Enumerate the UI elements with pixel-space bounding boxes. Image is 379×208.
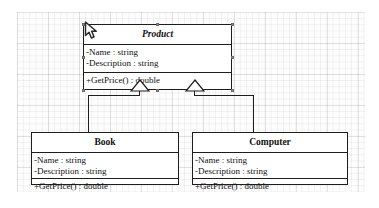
- operations-compartment-product: +GetPrice() : double: [84, 73, 231, 89]
- selection-handle[interactable]: [156, 89, 159, 92]
- class-name-computer: Computer: [193, 133, 347, 153]
- attributes-compartment-product: -Name : string -Description : string: [84, 45, 231, 73]
- generalization-line-book-horizontal: [88, 95, 140, 96]
- selection-handle[interactable]: [231, 23, 234, 26]
- selection-handle[interactable]: [156, 23, 159, 26]
- selection-handle[interactable]: [231, 89, 234, 92]
- attribute-row: -Description : string: [194, 166, 347, 178]
- generalization-line-computer-vertical-lower: [253, 95, 254, 133]
- diagram-canvas[interactable]: Product -Name : string -Description : st…: [0, 0, 379, 208]
- attribute-row: -Name : string: [33, 155, 178, 167]
- class-name-book: Book: [32, 133, 178, 153]
- generalization-arrowhead-book: [130, 79, 150, 92]
- attribute-row: -Description : string: [33, 166, 178, 178]
- attributes-compartment-computer: -Name : string -Description : string: [193, 153, 347, 179]
- selection-handle[interactable]: [231, 56, 234, 59]
- attributes-compartment-book: -Name : string -Description : string: [32, 153, 178, 179]
- operation-row: +GetPrice() : double: [85, 75, 231, 87]
- generalization-arrowhead-computer: [185, 79, 205, 92]
- uml-class-product[interactable]: Product -Name : string -Description : st…: [83, 24, 232, 90]
- attribute-row: -Name : string: [194, 155, 347, 167]
- attribute-row: -Description : string: [85, 58, 231, 70]
- attribute-row: -Name : string: [85, 47, 231, 59]
- selection-handle[interactable]: [82, 89, 85, 92]
- operation-row: +GetPrice() : double: [194, 181, 347, 193]
- generalization-line-book-vertical-lower: [88, 95, 89, 133]
- class-name-product: Product: [84, 25, 231, 45]
- uml-class-book[interactable]: Book -Name : string -Description : strin…: [31, 132, 179, 185]
- operations-compartment-book: +GetPrice() : double: [32, 179, 178, 195]
- operations-compartment-computer: +GetPrice() : double: [193, 179, 347, 195]
- selection-handle[interactable]: [82, 23, 85, 26]
- selection-handle[interactable]: [82, 56, 85, 59]
- operation-row: +GetPrice() : double: [33, 181, 178, 193]
- uml-class-computer[interactable]: Computer -Name : string -Description : s…: [192, 132, 348, 185]
- generalization-line-computer-horizontal: [194, 95, 254, 96]
